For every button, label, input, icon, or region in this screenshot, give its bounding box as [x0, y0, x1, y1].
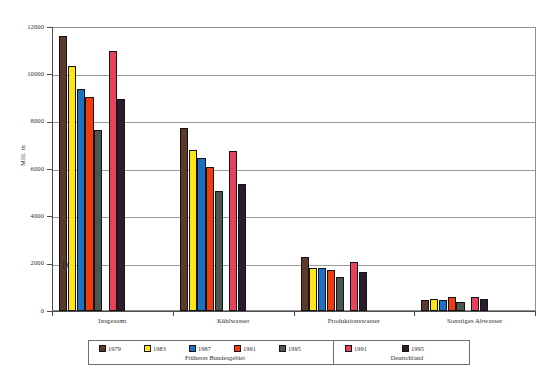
- bar: [215, 191, 223, 311]
- x-category-label: Produktionswasser: [294, 317, 415, 324]
- legend-divider: [333, 341, 334, 364]
- x-category-label: Sonstiges Abwasser: [414, 317, 535, 324]
- x-tick: [294, 311, 295, 316]
- x-tick: [535, 311, 536, 316]
- bar: [77, 89, 85, 311]
- x-tick: [414, 311, 415, 316]
- legend-swatch-icon: [234, 345, 241, 352]
- bar: [301, 257, 309, 311]
- y-tick: [47, 122, 53, 123]
- legend-entry[interactable]: 1991: [234, 345, 256, 352]
- legend-label: 1991: [354, 345, 367, 352]
- legend-swatch-icon: [402, 345, 409, 352]
- legend-entry[interactable]: 1995: [402, 345, 424, 352]
- bar: [350, 262, 358, 311]
- x-category-label: Insgesamt: [52, 317, 173, 324]
- bar: [189, 150, 197, 311]
- bar: [471, 297, 479, 311]
- legend-entry[interactable]: 1983: [144, 345, 166, 352]
- y-tick: [47, 169, 53, 170]
- bar: [206, 167, 214, 311]
- bar: [456, 302, 464, 311]
- legend-label: 1987: [198, 345, 211, 352]
- y-tick-label: 10000: [0, 71, 44, 78]
- legend-swatch-icon: [189, 345, 196, 352]
- bar-series-wrap: [53, 27, 536, 311]
- y-tick: [47, 74, 53, 75]
- x-category-label: Kühlwasser: [173, 317, 294, 324]
- bars-layer: [53, 27, 536, 311]
- legend-group-title: Deutschland: [345, 354, 469, 361]
- y-tick: [47, 27, 53, 28]
- legend-label: 1991: [243, 345, 256, 352]
- bar: [68, 66, 76, 311]
- bar: [309, 268, 317, 311]
- legend-label: 1979: [108, 345, 121, 352]
- bar: [318, 268, 326, 311]
- bar: [421, 300, 429, 311]
- legend-group-title: Früheres Bundesgebiet: [99, 354, 331, 361]
- bar: [480, 299, 488, 311]
- y-tick-label: 12000: [0, 24, 44, 31]
- bar: [238, 184, 246, 311]
- y-tick-label: 4000: [0, 213, 44, 220]
- bar: [439, 300, 447, 311]
- bar: [180, 128, 188, 311]
- bar: [117, 99, 125, 311]
- bar: [327, 270, 335, 311]
- y-tick-label: 8000: [0, 118, 44, 125]
- y-tick: [47, 216, 53, 217]
- x-tick: [52, 311, 53, 316]
- bar: [229, 151, 237, 311]
- bar: [430, 299, 438, 311]
- bar: [94, 130, 102, 311]
- legend-swatch-icon: [345, 345, 352, 352]
- bar: [359, 272, 367, 311]
- legend-label: 1995: [288, 345, 301, 352]
- y-axis-title: Mill. m: [19, 126, 26, 186]
- legend-entry[interactable]: 1987: [189, 345, 211, 352]
- legend-entry[interactable]: 1979: [99, 345, 121, 352]
- bar: [109, 51, 117, 311]
- y-tick-label: 0: [0, 308, 44, 315]
- legend-swatch-icon: [279, 345, 286, 352]
- bar: [197, 158, 205, 311]
- bar: [336, 277, 344, 311]
- legend-swatch-icon: [99, 345, 106, 352]
- legend-entry[interactable]: 1995: [279, 345, 301, 352]
- x-tick: [173, 311, 174, 316]
- legend-label: 1995: [411, 345, 424, 352]
- legend-swatch-icon: [144, 345, 151, 352]
- stray-zero-artifact: 0: [62, 258, 68, 273]
- legend-entry[interactable]: 1991: [345, 345, 367, 352]
- bar: [85, 97, 93, 311]
- y-tick-label: 2000: [0, 260, 44, 267]
- legend-label: 1983: [153, 345, 166, 352]
- y-tick: [47, 264, 53, 265]
- chart-container: 0 120001000080006000400020000 Mill. m In…: [0, 0, 556, 382]
- legend: 19791983198719911995Früheres Bundesgebie…: [88, 340, 470, 365]
- bar: [448, 297, 456, 311]
